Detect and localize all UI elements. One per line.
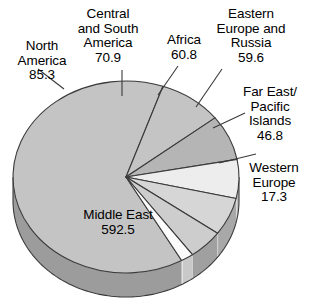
pie-label-eastern-europe-and-russia: Eastern Europe and Russia 59.6 xyxy=(201,7,301,65)
pie-label-central-and-south-america: Central and South America 70.9 xyxy=(60,7,156,65)
pie-label-western-europe: Western Europe 17.3 xyxy=(239,161,309,205)
pie-chart: North America 85.3 Central and South Ame… xyxy=(0,0,311,302)
pie-label-middle-east: Middle East 592.5 xyxy=(62,208,174,237)
pie-label-far-east-pacific-islands: Far East/ Pacific Islands 46.8 xyxy=(231,85,309,143)
